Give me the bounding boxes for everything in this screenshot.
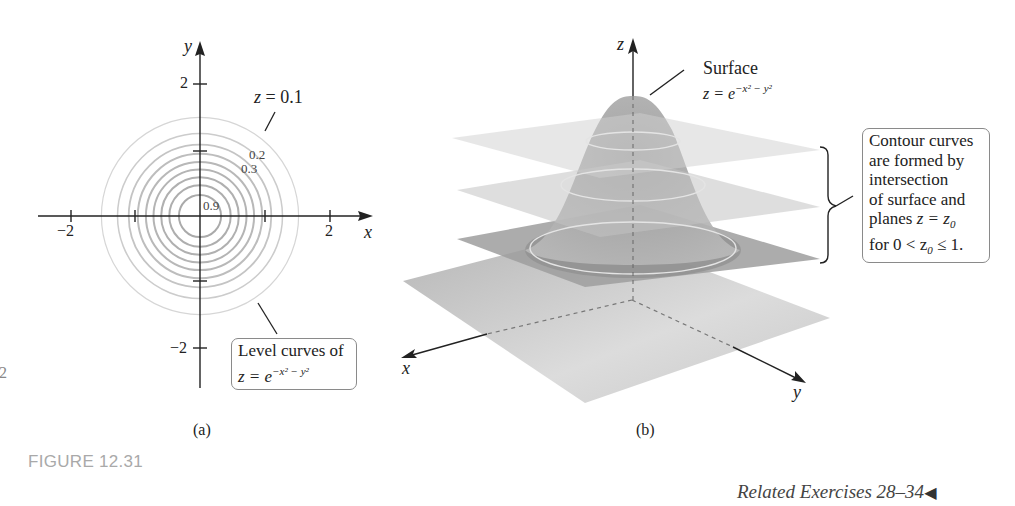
callout-line-5: planes z = z0 (869, 209, 983, 235)
contour-curves-callout: Contour curves are formed by intersectio… (862, 128, 990, 263)
end-marker-icon: ◀ (924, 484, 936, 501)
surface-label: Surface z = e−x² − y² (703, 58, 772, 104)
related-exercises: Related Exercises 28–34◀ (737, 481, 936, 503)
plane-top (452, 113, 820, 178)
surface-formula: z = e−x² − y² (703, 78, 772, 104)
brace (820, 147, 836, 263)
panel-b-caption: (b) (636, 421, 655, 439)
callout-line-2: are formed by (869, 151, 983, 171)
z-axis-label-3d: z (617, 34, 624, 55)
y-axis-label-3d: y (793, 382, 801, 403)
callout-line-1: Contour curves (869, 131, 983, 151)
surface-title: Surface (703, 58, 772, 78)
callout-line-4: of surface and (869, 190, 983, 210)
x-axis-3d-arrow (401, 349, 417, 358)
callout-line-3: intersection (869, 170, 983, 190)
figure-number: FIGURE 12.31 (28, 452, 143, 472)
callout-line-6: for 0 < z0 ≤ 1. (869, 235, 983, 261)
related-exercises-text: Related Exercises 28–34 (737, 481, 924, 502)
x-axis-label-3d: x (402, 358, 410, 379)
